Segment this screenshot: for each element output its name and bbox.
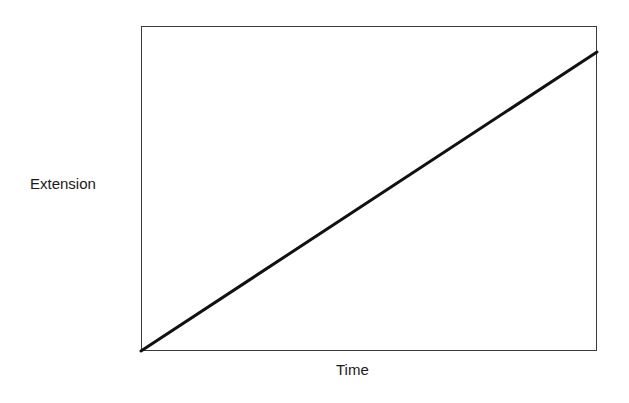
y-axis-label: Extension <box>30 175 96 192</box>
plot-svg <box>0 0 629 403</box>
chart: Extension Time <box>0 0 629 403</box>
data-line <box>141 52 597 351</box>
x-axis-label: Time <box>336 361 369 378</box>
